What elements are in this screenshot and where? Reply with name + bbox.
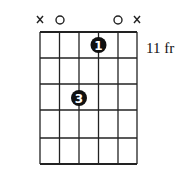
open-marker-string-2 — [56, 16, 64, 24]
finger-dot-1: 1 — [91, 37, 107, 53]
fret-position-label: 11 fr — [146, 40, 174, 57]
open-marker-string-5 — [114, 16, 122, 24]
svg-text:3: 3 — [75, 92, 83, 106]
mute-marker-string-1 — [37, 16, 43, 23]
finger-dot-3: 3 — [71, 90, 87, 106]
chord-diagram: 1 3 — [0, 0, 190, 170]
fretboard-grid — [40, 32, 137, 164]
svg-text:1: 1 — [94, 39, 102, 53]
string-markers — [37, 16, 140, 24]
mute-marker-string-6 — [134, 16, 140, 23]
